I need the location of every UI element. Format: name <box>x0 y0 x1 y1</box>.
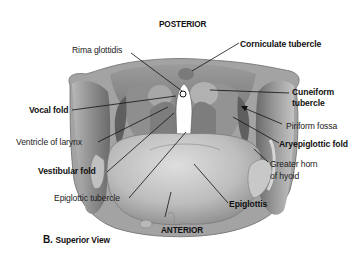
label-epiglottis: Epiglottis <box>229 199 267 209</box>
epiglottis-shape <box>107 133 262 228</box>
orientation-posterior: POSTERIOR <box>159 20 206 30</box>
caption-text: Superior View <box>56 235 110 245</box>
label-aryepiglottic-fold: Aryepiglottic fold <box>279 139 348 149</box>
label-corniculate-tubercle: Corniculate tubercle <box>240 39 321 49</box>
label-vestibular-fold: Vestibular fold <box>38 166 96 176</box>
label-cuneiform-line2: tubercle <box>292 98 325 108</box>
orientation-anterior: ANTERIOR <box>161 226 203 236</box>
label-cuneiform-line1: Cuneiform <box>292 87 334 97</box>
label-epiglottic-tubercle: Epiglottic tubercle <box>54 193 120 203</box>
label-greater-horn-line1: Greater horn <box>270 159 318 169</box>
label-greater-horn-line2: of hyoid <box>270 171 299 181</box>
label-piriform-fossa: Piriform fossa <box>286 121 337 131</box>
label-ventricle-of-larynx: Ventricle of larynx <box>16 137 82 147</box>
figure-caption: B. Superior View <box>43 235 110 245</box>
label-vocal-fold: Vocal fold <box>29 105 68 115</box>
label-rima-glottidis: Rima glottidis <box>72 45 122 55</box>
larynx-superior-view-figure: POSTERIOR ANTERIOR Rima glottidis Cornic… <box>0 0 360 253</box>
caption-letter: B. <box>43 234 53 245</box>
